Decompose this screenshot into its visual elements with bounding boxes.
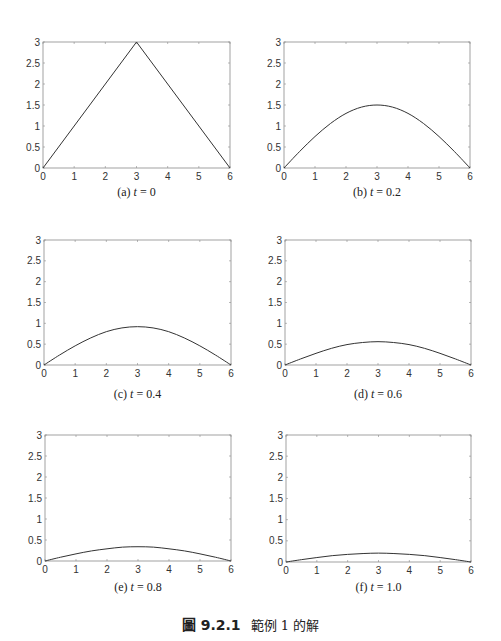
x-tick-label: 1: [313, 368, 319, 379]
x-tick-label: 0: [283, 565, 289, 576]
y-tick-label: 1.5: [268, 297, 282, 308]
x-tick-label: 0: [41, 368, 47, 379]
x-tick-label: 6: [228, 564, 234, 575]
subplot-d: 012345600.511.522.53(d) t = 0.6: [268, 235, 474, 402]
x-tick-label: 4: [166, 368, 172, 379]
x-tick-label: 3: [135, 564, 141, 575]
y-tick-label: 0: [36, 556, 42, 567]
y-tick-label: 0.5: [269, 535, 283, 546]
subplot-caption: (a) t = 0: [117, 185, 155, 199]
x-tick-label: 5: [197, 564, 203, 575]
x-tick-label: 2: [345, 565, 351, 576]
x-tick-label: 0: [282, 368, 288, 379]
y-tick-label: 2.5: [27, 255, 41, 266]
x-tick-label: 1: [314, 565, 320, 576]
y-tick-label: 2.5: [267, 58, 281, 69]
y-tick-label: 1.5: [28, 493, 42, 504]
caption-label: (d): [354, 387, 371, 401]
x-tick-label: 5: [196, 171, 202, 182]
solution-curve: [285, 342, 471, 365]
solution-curve: [45, 547, 231, 561]
y-tick-label: 2.5: [268, 255, 282, 266]
figure-title: 範例 1 的解: [251, 618, 320, 633]
y-tick-label: 0.5: [268, 339, 282, 350]
caption-value: = 0.4: [133, 387, 161, 401]
x-tick-label: 1: [72, 368, 78, 379]
y-tick-label: 2.5: [28, 451, 42, 462]
y-tick-label: 3: [277, 430, 283, 441]
x-tick-label: 4: [406, 368, 412, 379]
plot-frame: [44, 240, 231, 365]
subplot-caption: (c) t = 0.4: [114, 387, 161, 401]
y-tick-label: 2: [34, 79, 40, 90]
x-tick-label: 2: [344, 368, 350, 379]
subplot-c: 012345600.511.522.53(c) t = 0.4: [27, 235, 234, 402]
x-tick-label: 6: [468, 565, 474, 576]
y-tick-label: 1: [34, 121, 40, 132]
solution-curve: [44, 327, 231, 365]
y-tick-label: 1.5: [269, 493, 283, 504]
y-tick-label: 1: [36, 514, 42, 525]
subplot-f: 012345600.511.522.53(f) t = 1.0: [269, 430, 474, 595]
y-tick-label: 2: [36, 472, 42, 483]
y-tick-label: 2: [35, 276, 41, 287]
x-tick-label: 6: [227, 171, 233, 182]
subplot-a: 012345600.511.522.53(a) t = 0: [26, 37, 233, 200]
x-tick-label: 5: [437, 565, 443, 576]
caption-value: = 0: [137, 185, 156, 199]
x-tick-label: 1: [312, 171, 318, 182]
y-tick-label: 1: [276, 318, 282, 329]
subplot-b: 012345600.511.522.53(b) t = 0.2: [267, 37, 473, 200]
y-tick-label: 0.5: [28, 535, 42, 546]
y-tick-label: 0: [35, 360, 41, 371]
caption-value: = 1.0: [374, 580, 402, 594]
plot-frame: [45, 435, 231, 561]
x-tick-label: 3: [135, 368, 141, 379]
x-tick-label: 0: [42, 564, 48, 575]
x-tick-label: 2: [343, 171, 349, 182]
x-tick-label: 4: [407, 565, 413, 576]
solution-curve: [284, 105, 470, 168]
y-tick-label: 1.5: [26, 100, 40, 111]
x-tick-label: 2: [104, 564, 110, 575]
x-tick-label: 3: [375, 368, 381, 379]
y-tick-label: 1.5: [267, 100, 281, 111]
x-tick-label: 2: [104, 368, 110, 379]
plot-frame: [43, 42, 230, 168]
y-tick-label: 0.5: [27, 339, 41, 350]
y-tick-label: 2: [277, 472, 283, 483]
subplot-caption: (f) t = 1.0: [355, 580, 401, 594]
plot-frame: [285, 240, 471, 365]
caption-label: (f): [355, 580, 370, 594]
x-tick-label: 3: [376, 565, 382, 576]
caption-label: (e): [114, 580, 130, 594]
x-tick-label: 1: [73, 564, 79, 575]
y-tick-label: 1: [277, 514, 283, 525]
subplot-caption: (d) t = 0.6: [354, 387, 402, 401]
y-tick-label: 1: [275, 121, 281, 132]
figure-panels: 012345600.511.522.53(a) t = 0012345600.5…: [0, 0, 501, 641]
x-tick-label: 6: [228, 368, 234, 379]
x-tick-label: 5: [436, 171, 442, 182]
y-tick-label: 3: [36, 430, 42, 441]
x-tick-label: 0: [281, 171, 287, 182]
x-tick-label: 3: [134, 171, 140, 182]
y-tick-label: 1: [35, 318, 41, 329]
y-tick-label: 2.5: [26, 58, 40, 69]
y-tick-label: 0: [34, 163, 40, 174]
y-tick-label: 0.5: [267, 142, 281, 153]
caption-label: (a): [117, 185, 133, 199]
y-tick-label: 2: [275, 79, 281, 90]
subplot-e: 012345600.511.522.53(e) t = 0.8: [28, 430, 234, 595]
subplot-caption: (b) t = 0.2: [353, 185, 401, 199]
x-tick-label: 6: [468, 368, 474, 379]
x-tick-label: 4: [166, 564, 172, 575]
x-tick-label: 6: [467, 171, 473, 182]
caption-label: (c): [114, 387, 130, 401]
caption-value: = 0.6: [374, 387, 402, 401]
figure-number: 圖 9.2.1: [182, 617, 241, 633]
x-tick-label: 0: [40, 171, 46, 182]
x-tick-label: 5: [437, 368, 443, 379]
y-tick-label: 2: [276, 276, 282, 287]
y-tick-label: 2.5: [269, 451, 283, 462]
